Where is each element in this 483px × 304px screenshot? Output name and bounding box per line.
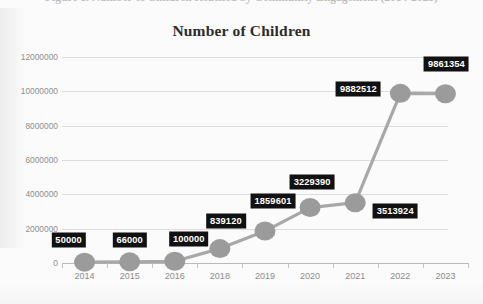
x-axis-tick-label: 2022 <box>390 271 410 281</box>
gridline <box>62 91 448 92</box>
x-axis-tick <box>288 263 289 268</box>
x-axis-tick-label: 2019 <box>255 271 275 281</box>
gridline <box>62 229 448 230</box>
gridline <box>62 126 448 127</box>
chart-title: Number of Children <box>0 22 483 40</box>
data-point-value-label: 3513924 <box>373 203 418 218</box>
x-axis-line <box>62 263 468 264</box>
y-axis-tick-label: 10000000 <box>21 86 58 96</box>
x-axis-tick-label: 2018 <box>210 271 230 281</box>
x-axis-tick <box>423 263 424 268</box>
gridline <box>62 57 448 58</box>
x-axis-tick-label: 2020 <box>300 271 320 281</box>
figure-caption: Figure 1. Number of Children Reached by … <box>0 0 483 5</box>
x-axis-tick <box>152 263 153 268</box>
data-point-value-label: 66000 <box>112 232 146 247</box>
y-axis-tick-label: 8000000 <box>25 121 58 131</box>
x-axis-tick-label: 2023 <box>435 271 455 281</box>
data-point-value-label: 9861354 <box>424 56 469 71</box>
x-axis-tick-label: 2021 <box>345 271 365 281</box>
x-axis-tick-label: 2014 <box>75 271 95 281</box>
data-point-value-label: 50000 <box>51 233 85 248</box>
data-point-value-label: 3229390 <box>290 174 335 189</box>
x-axis: 201420152016201820192020202120222023 <box>62 271 477 287</box>
y-axis-tick-label: 12000000 <box>21 52 58 62</box>
x-axis-tick <box>333 263 334 268</box>
y-axis-tick-label: 6000000 <box>25 155 58 165</box>
x-axis-tick <box>378 263 379 268</box>
x-axis-tick-label: 2015 <box>120 271 140 281</box>
data-point-value-label: 100000 <box>169 232 209 247</box>
x-axis-tick <box>62 263 63 268</box>
y-axis-tick-label: 4000000 <box>25 189 58 199</box>
y-axis-tick-label: 0 <box>53 258 58 268</box>
data-point-value-label: 839120 <box>206 213 246 228</box>
y-axis: 0200000040000006000000800000010000000120… <box>0 57 58 264</box>
x-axis-tick <box>107 263 108 268</box>
x-axis-tick <box>468 263 469 268</box>
x-axis-tick-label: 2016 <box>165 271 185 281</box>
x-axis-tick <box>242 263 243 268</box>
data-point-value-label: 9882512 <box>336 82 381 97</box>
gridline <box>62 160 448 161</box>
data-point-value-label: 1859601 <box>251 194 296 209</box>
x-axis-tick <box>197 263 198 268</box>
